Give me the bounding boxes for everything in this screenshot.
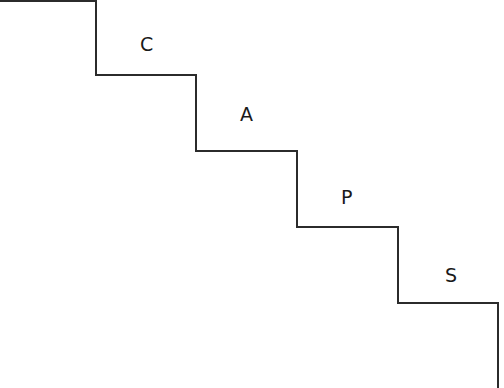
- step-label-c: C: [140, 35, 153, 54]
- step-label-p: P: [341, 188, 352, 207]
- step-label-a: A: [240, 105, 253, 124]
- staircase-line: [0, 0, 504, 388]
- step-label-s: S: [445, 266, 457, 285]
